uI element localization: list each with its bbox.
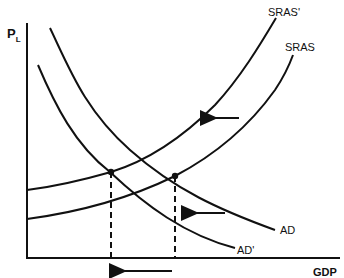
ad-as-diagram: PL GDP AD AD' SRAS' SRAS: [0, 0, 344, 278]
sras-prime-label: SRAS': [268, 6, 300, 18]
ad-label: AD: [280, 224, 295, 236]
y-axis-label: PL: [7, 26, 21, 44]
x-axis-label: GDP: [313, 266, 337, 278]
sras-prime-curve: [27, 18, 276, 190]
sras-label: SRAS: [285, 41, 315, 53]
ad-prime-label: AD': [237, 244, 254, 256]
sras-curve: [27, 55, 293, 219]
